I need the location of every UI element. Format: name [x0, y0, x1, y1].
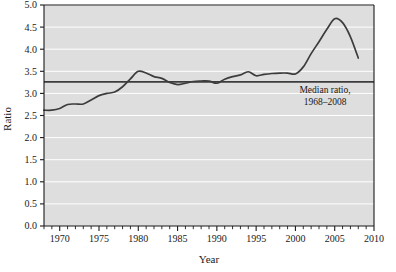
y-tick-label: 3.0 — [25, 88, 38, 99]
x-axis-title: Year — [199, 253, 220, 265]
y-axis-ticks — [40, 5, 44, 226]
y-tick-label: 2.5 — [25, 110, 38, 121]
median-annotation-line2: 1968–2008 — [304, 97, 347, 107]
x-axis-ticks — [44, 226, 374, 231]
x-axis-tick-labels: 197019751980198519901995200020052010 — [50, 233, 384, 244]
y-axis-title: Ratio — [1, 107, 13, 131]
y-tick-label: 0.0 — [25, 220, 38, 231]
x-tick-label: 1995 — [246, 233, 266, 244]
y-tick-label: 1.0 — [25, 176, 38, 187]
chart-figure: 0.00.51.01.52.02.53.03.54.04.55.0 197019… — [0, 0, 396, 272]
x-tick-label: 2005 — [325, 233, 345, 244]
x-tick-label: 1980 — [128, 233, 148, 244]
x-tick-label: 1975 — [89, 233, 109, 244]
x-tick-label: 1970 — [50, 233, 70, 244]
y-tick-label: 1.5 — [25, 154, 38, 165]
y-tick-label: 2.0 — [25, 132, 38, 143]
ratio-time-series-chart: 0.00.51.01.52.02.53.03.54.04.55.0 197019… — [0, 0, 396, 272]
x-tick-label: 2000 — [285, 233, 305, 244]
y-tick-label: 3.5 — [25, 66, 38, 77]
x-tick-label: 2010 — [364, 233, 384, 244]
median-annotation-line1: Median ratio, — [299, 85, 350, 95]
y-tick-label: 0.5 — [25, 198, 38, 209]
y-tick-label: 5.0 — [25, 0, 38, 10]
y-axis-tick-labels: 0.00.51.01.52.02.53.03.54.04.55.0 — [25, 0, 38, 231]
x-tick-label: 1990 — [207, 233, 227, 244]
y-tick-label: 4.5 — [25, 22, 38, 33]
x-tick-label: 1985 — [168, 233, 188, 244]
y-tick-label: 4.0 — [25, 44, 38, 55]
